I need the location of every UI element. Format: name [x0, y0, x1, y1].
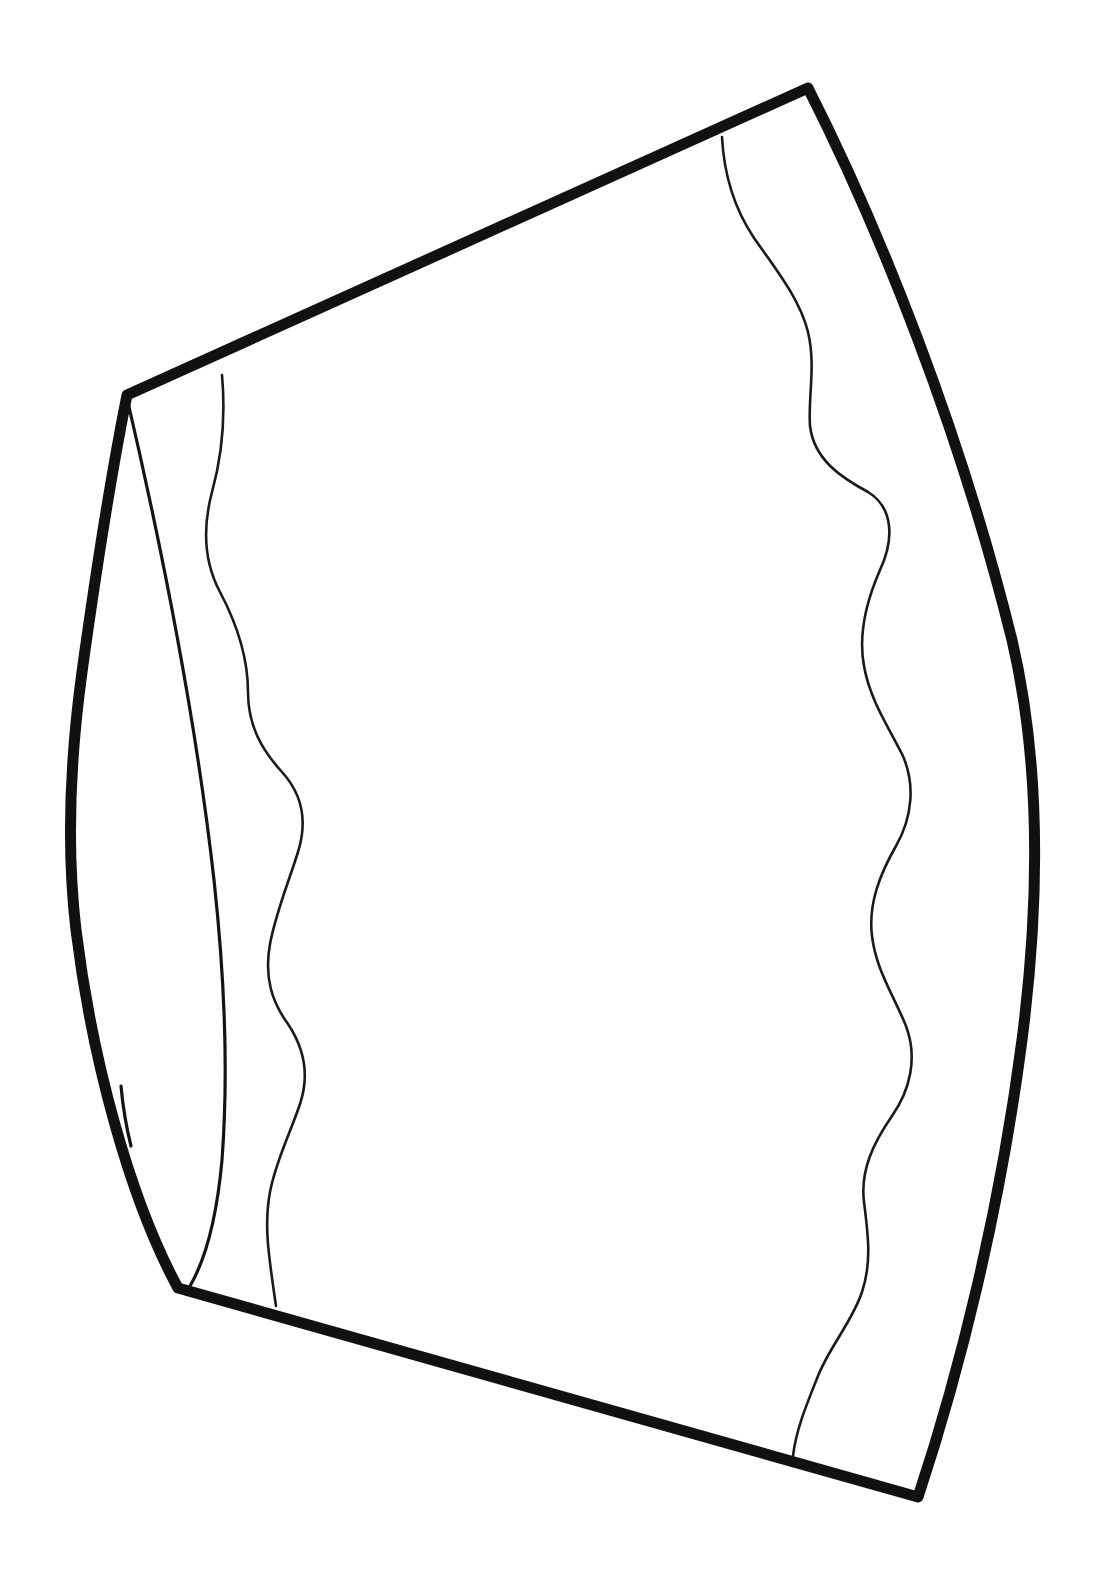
line-drawing-figure — [0, 0, 1100, 1588]
drawing-canvas: Hand-drawn line illustration Black ink o… — [0, 0, 1100, 1588]
